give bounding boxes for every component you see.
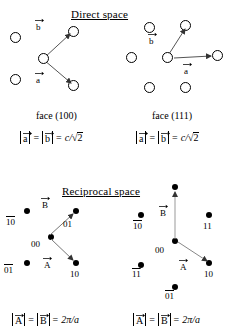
index-text: 01 — [4, 265, 13, 275]
vector-letter: a — [139, 134, 143, 144]
equals-sign: = — [171, 133, 179, 143]
magnitude-a: a — [136, 131, 146, 144]
index-label-1bar0: 10 — [6, 218, 15, 227]
vector-letter: A — [15, 316, 22, 326]
index-text: 10 — [204, 269, 213, 279]
index-label-00: 00 — [155, 246, 164, 255]
index-text: 00 — [31, 239, 40, 249]
index-label-10: 10 — [204, 270, 213, 279]
index-text: 10 — [70, 269, 79, 279]
caption-face-111: face (111) — [152, 110, 192, 121]
atom-circle-origin — [162, 52, 173, 63]
formula-rhs: c/√2 — [181, 132, 200, 143]
vector-label-a: a — [184, 66, 188, 76]
panel-direct-100: b a — [0, 18, 117, 100]
index-label-01: 01 — [63, 220, 72, 229]
vector-letter: A — [180, 262, 187, 272]
vector-label-b: b — [36, 22, 41, 32]
magnitude-A: A — [12, 313, 25, 326]
formula-direct-100: a = b = c/√2 — [20, 131, 83, 144]
vector-letter: B — [40, 316, 47, 326]
panel-reciprocal-111: B A 10 11 00 11 10 01 — [118, 178, 235, 288]
equals-sign: = — [32, 133, 40, 143]
vector-letter: b — [161, 134, 166, 144]
arrow-overbar-icon — [183, 62, 192, 67]
vector-letter: a — [36, 75, 40, 85]
index-label-10: 10 — [70, 270, 79, 279]
index-label-1bar1bar: 11 — [132, 270, 141, 279]
vector-letter: A — [44, 260, 51, 270]
arrow-overbar-icon — [35, 71, 44, 76]
index-text: 00 — [155, 245, 164, 255]
equals-sign: = — [148, 315, 156, 325]
index-text: 11 — [132, 269, 141, 279]
vector-letter: b — [36, 22, 41, 32]
vector-letter: a — [184, 66, 188, 76]
equals-sign: = — [148, 133, 156, 143]
arrow-overbar-icon — [41, 196, 50, 201]
magnitude-B: B — [37, 313, 50, 326]
formula-rhs: 2π/a — [61, 315, 79, 325]
magnitude-A: A — [133, 313, 146, 326]
equals-sign: = — [173, 315, 181, 325]
vector-label-A: A — [44, 260, 51, 270]
index-text: 01 — [63, 219, 72, 229]
index-text: 01 — [165, 291, 174, 301]
caption-face-100: face (100) — [36, 110, 77, 121]
vector-label-B: B — [160, 208, 166, 218]
arrow-overbar-icon — [148, 32, 157, 37]
vector-letter: B — [161, 316, 168, 326]
index-text: 10 — [6, 217, 15, 227]
magnitude-b: b — [42, 131, 53, 144]
formula-reciprocal-100: A = B = 2π/a — [12, 313, 79, 326]
lattice-vectors-100 — [0, 18, 117, 100]
vector-label-B: B — [42, 200, 48, 210]
lattice-vectors-111 — [118, 18, 235, 100]
magnitude-a: a — [20, 131, 30, 144]
arrow-overbar-icon — [43, 256, 52, 261]
arrow-overbar-icon — [179, 258, 188, 263]
arrow-overbar-icon — [35, 18, 44, 23]
figure-canvas: Direct space b — [0, 0, 235, 334]
atom-circle-origin — [38, 53, 49, 64]
index-label-11: 11 — [203, 222, 212, 231]
vector-label-a: a — [36, 75, 40, 85]
formula-rhs: 2π/a — [182, 315, 200, 325]
radicand: 2 — [77, 132, 83, 143]
formula-rhs: c/√2 — [65, 132, 84, 143]
vector-letter: a — [23, 134, 27, 144]
reciprocal-vectors-100 — [0, 196, 117, 286]
vector-letter: B — [42, 200, 48, 210]
vector-letter: B — [160, 208, 166, 218]
radicand: 2 — [193, 132, 199, 143]
vector-label-A: A — [180, 262, 187, 272]
index-text: 11 — [203, 221, 212, 231]
equals-sign: = — [27, 315, 35, 325]
formula-reciprocal-111: A = B = 2π/a — [133, 313, 200, 326]
vector-letter: A — [136, 316, 143, 326]
index-label-00: 00 — [31, 240, 40, 249]
vector-letter: b — [149, 36, 154, 46]
magnitude-b: b — [158, 131, 169, 144]
equals-sign: = — [52, 315, 60, 325]
magnitude-B: B — [158, 313, 171, 326]
vector-letter: b — [45, 134, 50, 144]
arrow-overbar-icon — [159, 204, 168, 209]
equals-sign: = — [55, 133, 63, 143]
panel-reciprocal-100: B A 10 01 00 01 10 — [0, 196, 117, 286]
panel-direct-111: b a — [118, 18, 235, 100]
index-label-1bar0: 10 — [133, 222, 142, 231]
index-text: 10 — [133, 221, 142, 231]
vector-label-b: b — [149, 36, 154, 46]
index-label-01bar: 01 — [4, 266, 13, 275]
index-label-01bar: 01 — [165, 292, 174, 301]
formula-direct-111: a = b = c/√2 — [136, 131, 199, 144]
